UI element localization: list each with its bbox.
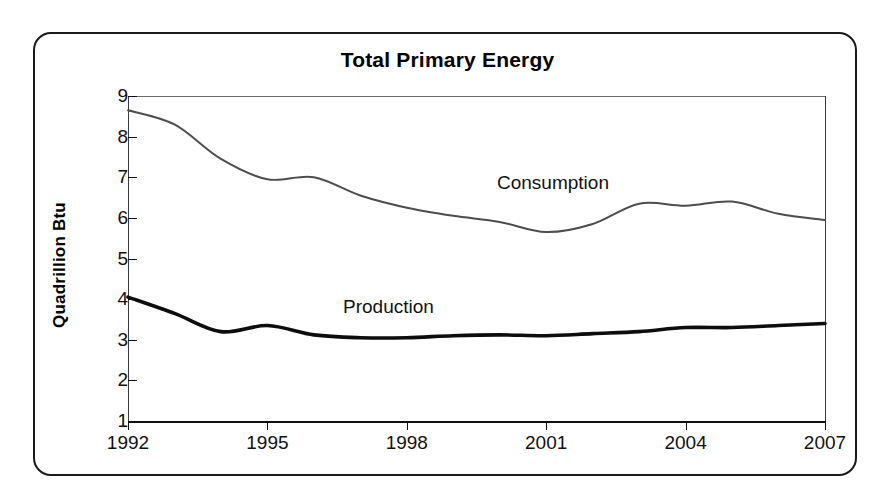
x-tick-label: 1998 xyxy=(386,432,428,454)
y-tick-label: 3 xyxy=(102,329,128,351)
y-tick-label: 9 xyxy=(102,85,128,107)
y-axis-tick-labels: 123456789 xyxy=(92,0,128,492)
x-tick-mark xyxy=(686,421,687,430)
y-tick-label: 1 xyxy=(102,410,128,432)
y-tick-label: 5 xyxy=(102,248,128,270)
x-tick-label: 2001 xyxy=(525,432,567,454)
y-tick-mark xyxy=(128,380,137,381)
series-label-consumption: Consumption xyxy=(497,172,609,194)
y-tick-label: 7 xyxy=(102,166,128,188)
y-tick-mark xyxy=(128,299,137,300)
y-tick-mark xyxy=(128,137,137,138)
plot-x-axis xyxy=(128,421,825,423)
x-tick-label: 1995 xyxy=(246,432,288,454)
x-tick-mark xyxy=(825,421,826,430)
series-label-production: Production xyxy=(343,296,434,318)
x-tick-label: 2007 xyxy=(804,432,846,454)
x-tick-mark xyxy=(128,421,129,430)
x-tick-label: 1992 xyxy=(107,432,149,454)
y-tick-mark xyxy=(128,340,137,341)
plot-top-border xyxy=(128,96,825,97)
y-axis-tick-marks xyxy=(128,0,140,492)
plot-right-border xyxy=(825,96,826,422)
y-tick-mark xyxy=(128,259,137,260)
y-tick-mark xyxy=(128,218,137,219)
chart-outer-frame xyxy=(33,32,857,476)
x-tick-label: 2004 xyxy=(664,432,706,454)
y-tick-label: 2 xyxy=(102,369,128,391)
y-tick-label: 8 xyxy=(102,126,128,148)
y-tick-mark xyxy=(128,96,137,97)
chart-page: Total Primary Energy Quadrillion Btu 123… xyxy=(0,0,895,492)
y-tick-label: 6 xyxy=(102,207,128,229)
y-axis-title: Quadrillion Btu xyxy=(50,150,70,380)
y-tick-mark xyxy=(128,421,137,422)
x-tick-mark xyxy=(267,421,268,430)
x-tick-mark xyxy=(546,421,547,430)
x-tick-mark xyxy=(407,421,408,430)
y-tick-label: 4 xyxy=(102,288,128,310)
y-tick-mark xyxy=(128,177,137,178)
